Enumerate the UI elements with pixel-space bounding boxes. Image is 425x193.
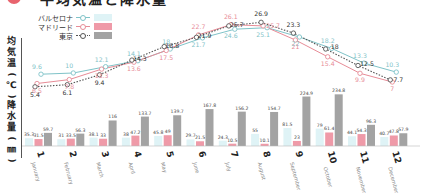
svg-text:November: November [355, 166, 368, 193]
precipitation-value-label: 116 [108, 114, 117, 119]
precipitation-value-label: 57.9 [398, 127, 408, 132]
precipitation-bar [367, 125, 375, 146]
precipitation-value-label: 79 [317, 123, 323, 128]
temperature-value-label: 12.5 [360, 60, 374, 67]
precipitation-bar [141, 117, 149, 146]
precipitation-bar [44, 133, 52, 146]
temperature-value-label: 21.9 [198, 32, 212, 39]
precipitation-bar [316, 129, 324, 146]
month-label: 7July [221, 150, 243, 172]
precipitation-value-label: 54.3 [356, 128, 366, 133]
precipitation-bar [122, 138, 130, 146]
precipitation-value-label: 133.7 [138, 111, 151, 116]
svg-text:September: September [288, 161, 302, 191]
temperature-value-label: 10.3 [385, 61, 399, 68]
month-label: 11November [351, 150, 378, 193]
month-label: 1January [27, 150, 52, 182]
precipitation-bar [219, 141, 227, 146]
temperature-point [99, 67, 103, 71]
precipitation-value-label: 61.4 [324, 126, 334, 131]
temperature-point [259, 20, 263, 24]
svg-text:12: 12 [390, 150, 403, 165]
precipitation-bar [283, 128, 291, 146]
precipitation-value-label: 33 [100, 133, 106, 138]
precipitation-bar [173, 115, 181, 146]
month-label: 6June [189, 150, 212, 174]
month-label: 5May [157, 150, 179, 174]
svg-text:October: October [323, 166, 334, 188]
svg-text:January: January [29, 161, 41, 183]
month-label: 9September [286, 150, 313, 192]
temperature-value-label: 23.3 [287, 21, 301, 28]
precipitation-bar [325, 132, 333, 146]
svg-text:6: 6 [197, 150, 208, 159]
svg-text:March: March [95, 161, 105, 178]
precipitation-value-label: 38 [123, 132, 129, 137]
precipitation-bar [196, 141, 204, 146]
precipitation-bar [35, 139, 43, 146]
precipitation-value-label: 154.7 [268, 106, 281, 111]
svg-text:5: 5 [164, 150, 175, 159]
chart-canvas: 9.61012.114.11821.724.625.12218.213.310.… [0, 0, 425, 193]
month-label: 8August [253, 150, 277, 181]
precipitation-bar [76, 134, 84, 146]
temperature-value-label: 13.6 [127, 65, 141, 72]
temperature-point [326, 55, 330, 59]
temperature-point [67, 77, 71, 81]
precipitation-value-label: 139.7 [171, 109, 184, 114]
precipitation-value-label: 31.5 [33, 133, 43, 138]
temperature-value-label: 18.8 [165, 42, 179, 49]
precipitation-value-label: 81.5 [282, 122, 292, 127]
precipitation-bar [99, 139, 107, 146]
svg-text:2: 2 [67, 150, 78, 159]
month-label: 12December [384, 150, 411, 193]
precipitation-value-label: 55 [252, 128, 258, 133]
precipitation-value-label: 49 [165, 129, 171, 134]
precipitation-bar [206, 109, 214, 146]
temperature-value-label: 9.4 [95, 79, 105, 86]
month-label: 4April [124, 150, 147, 175]
precipitation-value-label: 10.1 [259, 138, 269, 143]
precipitation-bar [399, 133, 407, 146]
precipitation-value-label: 47.2 [130, 130, 140, 135]
month-label: 3March [93, 150, 116, 178]
precipitation-bar [228, 144, 236, 146]
temperature-value-label: 9.6 [32, 63, 42, 70]
temperature-point [39, 72, 43, 76]
temperature-value-label: 18 [331, 43, 339, 50]
temperature-value-label: 17.5 [159, 54, 173, 61]
precipitation-bar [25, 138, 33, 146]
precipitation-value-label: 21.5 [195, 135, 205, 140]
temperature-point [324, 47, 328, 51]
month-label: 2February [60, 150, 86, 186]
precipitation-value-label: 224.9 [300, 91, 313, 96]
temperature-value-label: 22.7 [192, 23, 206, 30]
precipitation-bar [187, 139, 195, 146]
precipitation-bar [109, 120, 117, 146]
precipitation-value-label: 234.8 [332, 88, 345, 93]
svg-text:July: July [223, 161, 232, 173]
temperature-value-label: 9.9 [355, 76, 365, 83]
precipitation-value-label: 59.7 [43, 127, 53, 132]
svg-text:August: August [256, 161, 267, 180]
temperature-value-label: 7.7 [393, 76, 403, 83]
precipitation-bar [390, 135, 398, 146]
precipitation-bar [348, 136, 356, 146]
svg-text:December: December [387, 166, 400, 193]
svg-text:9: 9 [293, 150, 304, 159]
temperature-point [297, 35, 301, 39]
precipitation-value-label: 156.2 [235, 106, 248, 111]
svg-text:April: April [127, 161, 137, 174]
precipitation-value-label: 38.1 [88, 132, 98, 137]
precipitation-bar [302, 97, 310, 146]
month-label: 10October [319, 150, 345, 189]
precipitation-bar [154, 136, 162, 146]
temperature-value-label: 12.1 [95, 56, 109, 63]
temperature-line [37, 25, 392, 84]
temperature-value-label: 15.4 [321, 60, 335, 67]
precipitation-bar [270, 112, 278, 146]
temperature-value-label: 5.4 [30, 91, 40, 98]
svg-text:May: May [159, 161, 169, 173]
precipitation-bar [335, 94, 343, 146]
svg-text:1: 1 [35, 150, 46, 159]
